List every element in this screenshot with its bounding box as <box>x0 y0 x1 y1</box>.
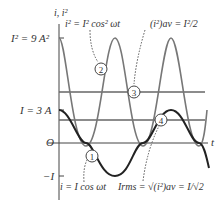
marker-2: 2 <box>95 63 107 75</box>
marker-1: 1 <box>86 150 98 162</box>
t-axis-label: t <box>211 136 215 148</box>
svg-text:4: 4 <box>159 116 164 126</box>
tick-origin: O <box>46 136 54 148</box>
y-axis-label: i, i² <box>54 7 69 18</box>
marker-4: 4 <box>155 114 167 126</box>
svg-text:3: 3 <box>132 88 137 98</box>
eq-i-squared: i² = I² cos² ωt <box>65 18 120 29</box>
svg-text:1: 1 <box>90 152 95 162</box>
tick-I: I = 3 A <box>19 104 52 116</box>
eq-average: (i²)av = I²/2 <box>150 18 198 30</box>
eq-i: i = I cos ωt <box>60 181 106 192</box>
eq-rms: Irms = √(i²)av = I/√2 <box>117 181 204 193</box>
rms-diagram: i, i² i² = I² cos² ωt (i²)av = I²/2 I² =… <box>0 0 224 209</box>
marker-3: 3 <box>128 86 140 98</box>
svg-text:2: 2 <box>99 65 104 75</box>
tick-neg-I: −I <box>43 170 55 182</box>
tick-I2: I² = 9 A² <box>10 32 50 44</box>
